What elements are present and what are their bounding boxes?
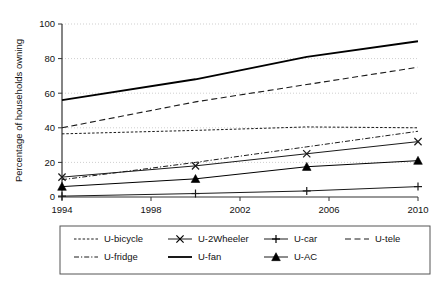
y-axis-title: Percentage of households owning: [13, 39, 24, 182]
y-tick-label-100: 100: [39, 18, 55, 29]
legend-label-u-fan: U-fan: [198, 251, 221, 262]
legend-label-u-2wheeler: U-2Wheeler: [198, 233, 249, 244]
legend-label-u-car: U-car: [294, 233, 317, 244]
y-tick-label-40: 40: [44, 122, 55, 133]
x-tick-label-2010: 2010: [407, 204, 428, 215]
x-tick-label-1994: 1994: [51, 204, 72, 215]
y-tick-label-0: 0: [50, 191, 55, 202]
chart-legend: U-bicycleU-2WheelerU-carU-teleU-fridgeU-…: [60, 226, 430, 274]
y-tick-label-20: 20: [44, 157, 55, 168]
legend-label-u-ac: U-AC: [294, 251, 317, 262]
x-tick-label-1998: 1998: [140, 204, 161, 215]
legend-label-u-fridge: U-fridge: [104, 251, 138, 262]
x-tick-label-2006: 2006: [318, 204, 339, 215]
line-chart: Percentage of households owning 02040608…: [0, 0, 436, 283]
y-tick-label-80: 80: [44, 53, 55, 64]
legend-label-u-tele: U-tele: [375, 233, 400, 244]
x-tick-label-2002: 2002: [229, 204, 250, 215]
chart-figure: Percentage of households owning 02040608…: [0, 0, 436, 283]
y-axis-label-group: Percentage of households owning: [13, 39, 24, 182]
legend-label-u-bicycle: U-bicycle: [104, 233, 143, 244]
y-tick-label-60: 60: [44, 88, 55, 99]
